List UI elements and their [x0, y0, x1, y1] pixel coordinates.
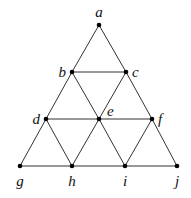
edges-group: [20, 25, 177, 166]
vertex-j: [175, 164, 180, 169]
vertex-c: [124, 70, 129, 75]
vertex-d: [44, 117, 49, 122]
vertex-label-j: j: [173, 173, 179, 189]
edge-d-h: [46, 119, 72, 166]
vertex-label-b: b: [59, 64, 67, 80]
vertex-label-h: h: [68, 173, 76, 189]
vertex-label-i: i: [123, 173, 127, 189]
edge-a-b: [72, 25, 99, 72]
edge-a-c: [99, 25, 126, 72]
graph-diagram: abcdefghij: [0, 0, 191, 198]
edge-b-e: [72, 72, 99, 119]
labels-group: abcdefghij: [16, 4, 179, 189]
edge-c-f: [126, 72, 152, 119]
vertex-f: [150, 117, 155, 122]
vertex-label-g: g: [16, 173, 24, 189]
vertex-label-c: c: [132, 64, 139, 80]
vertex-b: [70, 70, 75, 75]
vertex-label-e: e: [107, 103, 114, 119]
vertex-h: [70, 164, 75, 169]
edge-e-i: [99, 119, 125, 166]
vertex-label-f: f: [158, 111, 164, 127]
vertex-i: [123, 164, 128, 169]
edge-f-i: [125, 119, 152, 166]
vertex-label-a: a: [95, 4, 103, 20]
vertex-label-d: d: [33, 111, 41, 127]
vertex-e: [97, 117, 102, 122]
edge-e-h: [72, 119, 99, 166]
nodes-group: [18, 23, 180, 169]
vertex-a: [97, 23, 102, 28]
vertex-g: [18, 164, 23, 169]
edge-f-j: [152, 119, 177, 166]
